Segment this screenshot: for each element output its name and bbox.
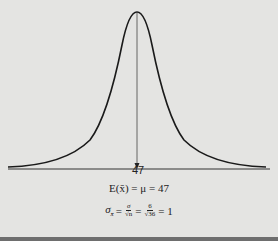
expected-value-equation: E(x̄) = μ = 47 [0,182,278,194]
x-tick-label: 47 [128,164,148,176]
sigma-symbol: σx̄ [105,203,114,218]
fraction-6-over-root-36: 6√36 [145,203,156,218]
standard-error-equation: σx̄ = σ√n = 6√36 = 1 [0,203,278,218]
fraction-sigma-over-root-n: σ√n [125,203,132,218]
